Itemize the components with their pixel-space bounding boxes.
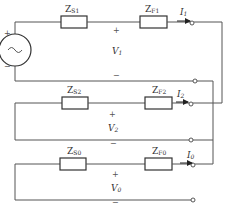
network-positive: + − ZS1 ZF1 I1 + V1 − (0, 4, 222, 140)
voltage-label-0: V0 (111, 183, 122, 193)
source-minus-sign: − (4, 62, 11, 71)
svg-text:I0: I0 (186, 150, 195, 160)
source-plus-sign: + (4, 29, 11, 38)
svg-text:ZS1: ZS1 (65, 4, 79, 14)
svg-text:ZF1: ZF1 (145, 4, 159, 14)
impedance-zs0 (60, 158, 86, 170)
network-zero: ZS0 ZF0 I0 + V0 − (15, 146, 213, 207)
circuit-diagram: + − ZS1 ZF1 I1 + V1 − ZS2 (0, 0, 227, 209)
svg-text:ZS0: ZS0 (67, 146, 81, 156)
terminal-1-top (190, 21, 194, 25)
voltage-label-1: V1 (112, 46, 122, 56)
v1-minus: − (113, 71, 120, 80)
svg-text:I1: I1 (179, 7, 187, 17)
v2-plus: + (109, 110, 116, 119)
terminal-2-bottom (189, 138, 193, 142)
svg-text:I2: I2 (176, 89, 185, 99)
terminal-0-top (191, 163, 195, 167)
impedance-zf1 (140, 16, 167, 28)
impedance-zf0 (145, 158, 172, 170)
v0-minus: − (112, 198, 119, 207)
impedance-zs1 (61, 16, 87, 28)
voltage-label-2: V2 (108, 123, 119, 133)
terminal-1-bottom (193, 79, 197, 83)
impedance-zs2 (62, 97, 88, 109)
impedance-zf2 (145, 97, 172, 109)
v0-plus: + (112, 170, 119, 179)
terminal-0-bottom (191, 198, 195, 202)
svg-text:ZF2: ZF2 (152, 85, 166, 95)
svg-text:ZF0: ZF0 (152, 146, 166, 156)
svg-text:ZS2: ZS2 (67, 85, 81, 95)
v2-minus: − (110, 139, 117, 148)
terminal-2-top (189, 102, 193, 106)
v1-plus: + (113, 26, 120, 35)
